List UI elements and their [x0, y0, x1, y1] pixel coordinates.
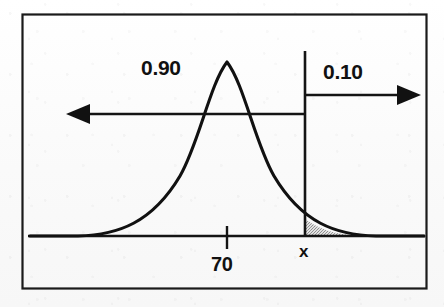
right-probability-arrow [305, 85, 421, 105]
right-probability-label: 0.10 [323, 61, 363, 82]
cutoff-x-label: x [299, 243, 308, 260]
mean-value-label: 70 [211, 254, 233, 274]
normal-curve [30, 62, 424, 236]
figure-frame [23, 15, 427, 289]
normal-curve-figure: 0.90 0.10 70 x [0, 0, 444, 307]
shaded-tail-area [85, 62, 369, 237]
left-probability-label: 0.90 [141, 57, 181, 78]
left-probability-arrow [66, 104, 305, 124]
